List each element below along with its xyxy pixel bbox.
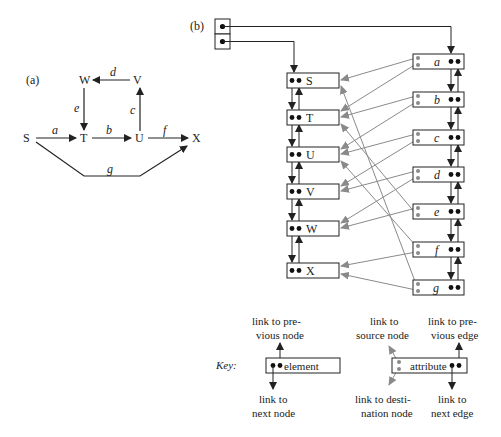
- node-list-head-pointer: [223, 42, 294, 73]
- node-record-label: T: [306, 111, 314, 125]
- key-element-record: link to pre- vious node element link to …: [252, 315, 340, 419]
- panel-b-label: (b): [190, 19, 204, 33]
- graph-node-v: V: [133, 73, 142, 87]
- node-list: S T U V W: [287, 73, 339, 278]
- edge-record-label: a: [434, 55, 440, 69]
- edge-record-e: e: [413, 204, 464, 219]
- edge-record-label: e: [434, 205, 440, 219]
- node-record-w: W: [287, 221, 339, 236]
- key-dest-line1: link to desti-: [355, 393, 411, 405]
- key-title: Key:: [215, 359, 237, 371]
- key-next-edge-line1: link to: [438, 393, 467, 405]
- key-prev-node-line1: link to pre-: [252, 315, 301, 327]
- node-record-label: X: [306, 264, 315, 278]
- graph-edge-label-e: e: [74, 101, 80, 115]
- key-prev-edge-line1: link to pre-: [428, 315, 477, 327]
- graph-edge-label-c: c: [130, 103, 136, 117]
- key-next-node-line1: link to: [259, 393, 288, 405]
- key-source-line2: source node: [356, 329, 409, 341]
- key-source-line1: link to: [370, 315, 399, 327]
- key-dest-line2: nation node: [361, 407, 413, 419]
- key-next-node-line2: next node: [252, 407, 295, 419]
- key-attribute-label: attribute: [410, 360, 447, 372]
- graph-node-t: T: [80, 131, 88, 145]
- graph-node-w: W: [79, 73, 91, 87]
- panel-a-graph: (a) W V S T U X a b c d e f g: [23, 65, 201, 176]
- edge-list: a b c d: [413, 54, 464, 295]
- edge-record-d: d: [413, 167, 464, 182]
- legend-key: Key: link to pre- vious node element lin…: [215, 315, 478, 419]
- graph-node-s: S: [23, 131, 30, 145]
- node-record-label: U: [306, 148, 315, 162]
- node-record-u: U: [287, 147, 339, 162]
- edge-record-label: d: [434, 168, 441, 182]
- panel-a-label: (a): [26, 73, 39, 87]
- edge-endpoint-pointers: [341, 58, 416, 290]
- graph-edge-label-d: d: [110, 65, 117, 79]
- edge-record-a: a: [413, 54, 464, 69]
- key-prev-node-line2: vious node: [256, 329, 304, 341]
- edge-record-c: c: [413, 130, 464, 145]
- panel-b-structure: (b): [190, 19, 464, 295]
- graph-edge-label-g: g: [107, 162, 113, 176]
- edge-record-label: b: [434, 93, 440, 107]
- edge-record-b: b: [413, 92, 464, 107]
- edge-record-g: g: [413, 280, 464, 295]
- key-attribute-record: link to source node link to pre- vious e…: [355, 315, 478, 419]
- key-next-edge-line2: next edge: [431, 407, 474, 419]
- node-record-label: S: [306, 74, 313, 88]
- edge-list-head-pointer: [223, 27, 451, 54]
- graph-node-x: X: [192, 131, 201, 145]
- graph-node-u: U: [135, 131, 144, 145]
- graph-diagram: (a) W V S T U X a b c d e f g (b): [0, 0, 501, 437]
- graph-edge-label-a: a: [52, 123, 58, 137]
- node-record-label: V: [306, 185, 315, 199]
- node-record-x: X: [287, 263, 339, 278]
- edge-record-label: c: [434, 131, 440, 145]
- key-element-label: element: [284, 360, 319, 372]
- edge-record-label: g: [433, 281, 439, 295]
- graph-edge-label-b: b: [106, 123, 112, 137]
- node-record-v: V: [287, 184, 339, 199]
- edge-record-f: f: [413, 242, 464, 257]
- key-prev-edge-line2: vious edge: [431, 329, 478, 341]
- node-record-label: W: [306, 222, 318, 236]
- graph-edge-label-f: f: [163, 123, 168, 137]
- node-record-s: S: [287, 73, 339, 88]
- node-record-t: T: [287, 110, 339, 125]
